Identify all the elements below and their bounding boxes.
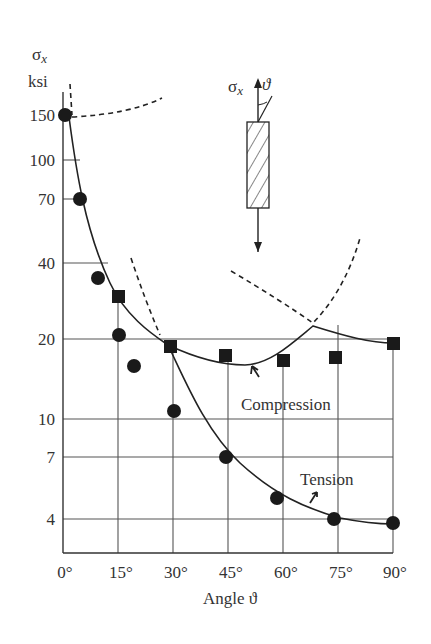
y-axis-symbol: σx [32, 45, 47, 66]
arrow-down-icon [254, 242, 262, 252]
svg-text:30°: 30° [164, 563, 188, 582]
y-axis-unit: ksi [28, 72, 48, 91]
y-tick-labels: 150 100 70 40 20 10 7 4 [30, 106, 56, 529]
svg-text:4: 4 [47, 510, 56, 529]
arrow-up-icon [254, 78, 262, 88]
svg-text:40: 40 [38, 254, 55, 273]
tension-points [58, 108, 400, 530]
svg-text:150: 150 [30, 106, 56, 125]
svg-text:15°: 15° [109, 563, 133, 582]
svg-text:45°: 45° [219, 563, 243, 582]
tension-label: Tension [300, 470, 354, 489]
compression-points [112, 290, 400, 367]
svg-text:20: 20 [38, 330, 55, 349]
svg-text:75°: 75° [329, 563, 353, 582]
compression-label: Compression [241, 395, 331, 414]
inset-sigma-label: σx [228, 77, 243, 98]
svg-text:70: 70 [38, 190, 55, 209]
svg-text:100: 100 [30, 151, 56, 170]
x-tick-labels: 0° 15° 30° 45° 60° 75° 90° [57, 563, 407, 582]
specimen-bar [247, 122, 269, 208]
chart: σx ksi 150 100 70 40 20 10 7 4 0° 15° 30… [0, 0, 431, 644]
compression-arrow-icon [251, 366, 259, 377]
fiber-angle-line [258, 96, 272, 122]
tension-arrow-icon [310, 492, 317, 503]
angle-arc [258, 102, 267, 105]
svg-text:0°: 0° [57, 563, 72, 582]
svg-text:90°: 90° [383, 563, 407, 582]
x-axis-title: Angle ϑ [203, 589, 258, 608]
inset-theta-label: ϑ [262, 75, 272, 94]
specimen-inset: σx ϑ [228, 75, 272, 252]
svg-text:10: 10 [38, 410, 55, 429]
svg-text:7: 7 [47, 448, 56, 467]
svg-text:60°: 60° [274, 563, 298, 582]
